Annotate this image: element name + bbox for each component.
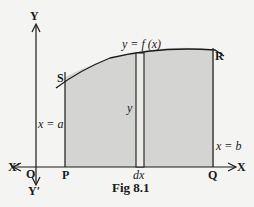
label-s: S: [57, 71, 64, 85]
strip-dx: [136, 53, 144, 167]
label-x-axis: X: [237, 160, 246, 174]
label-origin: O: [26, 167, 35, 181]
label-y-axis: Y: [30, 9, 39, 23]
label-curve: y = f (x): [121, 37, 161, 51]
label-q: Q: [208, 168, 217, 182]
label-x-neg: X′: [8, 160, 20, 174]
label-y-neg: Y′: [28, 184, 40, 198]
label-x-eq-a: x = a: [37, 117, 63, 131]
figure-caption: Fig 8.1: [112, 180, 150, 195]
label-x-eq-b: x = b: [215, 139, 241, 153]
label-p: P: [62, 168, 69, 182]
label-height-y: y: [126, 101, 133, 115]
area-under-curve-diagram: Y Y′ X′ X O P Q S R y = f (x) x = a x = …: [0, 0, 254, 207]
label-r: R: [215, 49, 224, 63]
